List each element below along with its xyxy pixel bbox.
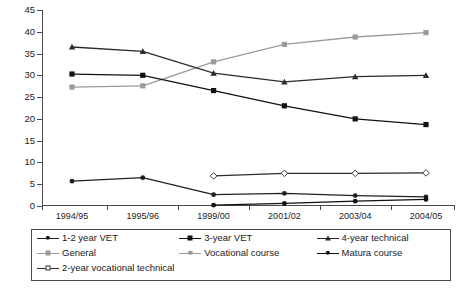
series-3-year-vet	[69, 71, 428, 127]
legend-label: 3-year VET	[204, 233, 252, 243]
y-tick-label: 0	[30, 201, 35, 211]
legend-label: Vocational course	[204, 248, 279, 258]
data-point	[70, 179, 75, 184]
data-point	[211, 59, 216, 64]
data-point	[210, 173, 217, 180]
y-tick-label: 45	[24, 5, 35, 15]
legend-item[interactable]: Matura course	[317, 248, 445, 258]
y-tick-label: 15	[24, 136, 35, 146]
x-tick-label: 1995/96	[127, 212, 160, 221]
plot-area: 051015202530354045 1994/951995/961999/00…	[42, 10, 454, 206]
y-tick-label: 40	[24, 27, 35, 37]
data-point	[211, 203, 216, 208]
series-vocational-course	[211, 30, 429, 64]
legend-row: 1-2 year VET3-year VET4-year technical	[37, 233, 445, 248]
x-tick-label: 2001/02	[268, 212, 301, 221]
data-point	[423, 122, 428, 127]
series-4-year-technical	[69, 44, 429, 85]
data-point	[423, 170, 430, 177]
data-point	[140, 73, 145, 78]
x-tick-label: 1994/95	[56, 212, 89, 221]
series-2-year-vocational-technical	[210, 170, 429, 180]
legend-row: GeneralVocational courseMatura course	[37, 248, 445, 263]
legend-item[interactable]: 2-year vocational technical	[37, 263, 181, 273]
legend-label: 4-year technical	[342, 233, 409, 243]
series-general	[69, 83, 145, 90]
series-line	[214, 33, 426, 62]
legend-marker-icon	[37, 248, 59, 258]
legend-item[interactable]: 3-year VET	[179, 233, 316, 243]
legend-marker-icon	[37, 233, 59, 243]
chart-legend: 1-2 year VET3-year VET4-year technical G…	[31, 229, 451, 281]
y-tick-label: 25	[24, 92, 35, 102]
series-line	[214, 199, 426, 205]
y-tick-label: 30	[24, 71, 35, 81]
data-point	[423, 30, 428, 35]
data-point	[140, 83, 145, 88]
legend-item[interactable]: Vocational course	[179, 248, 316, 258]
legend-row: 2-year vocational technical	[37, 263, 445, 278]
series-line	[72, 86, 143, 87]
series-line	[72, 74, 426, 125]
legend-marker-icon	[179, 233, 201, 243]
y-tick-label: 35	[24, 49, 35, 59]
legend-marker-icon	[179, 248, 201, 258]
series-layer	[42, 10, 454, 206]
data-point	[353, 116, 358, 121]
data-point	[140, 175, 145, 180]
legend-label: 1-2 year VET	[62, 233, 118, 243]
data-point	[282, 191, 287, 196]
y-tick-label: 20	[24, 114, 35, 124]
y-tick-label: 10	[24, 158, 35, 168]
legend-item[interactable]: 4-year technical	[317, 233, 445, 243]
legend-marker-icon	[317, 233, 339, 243]
data-point	[282, 42, 287, 47]
data-point	[282, 103, 287, 108]
line-chart: 051015202530354045 1994/951995/961999/00…	[0, 0, 470, 289]
legend-item[interactable]: General	[37, 248, 179, 258]
x-tick-label: 1999/00	[197, 212, 230, 221]
legend-item[interactable]: 1-2 year VET	[37, 233, 179, 243]
data-point	[211, 192, 216, 197]
legend-marker-icon	[37, 263, 59, 273]
data-point	[282, 201, 287, 206]
data-point	[353, 34, 358, 39]
x-tick-label: 2004/05	[410, 212, 443, 221]
legend-label: Matura course	[342, 248, 403, 258]
series-line	[72, 178, 426, 197]
data-point	[69, 71, 74, 76]
legend-label: General	[62, 248, 96, 258]
data-point	[352, 170, 359, 177]
series-line	[72, 47, 426, 82]
series-line	[214, 173, 426, 176]
series-matura-course	[211, 197, 428, 207]
data-point	[69, 84, 74, 89]
data-point	[424, 197, 429, 202]
data-point	[281, 170, 288, 177]
x-tick-label: 2003/04	[339, 212, 372, 221]
legend-marker-icon	[317, 248, 339, 258]
series-1-2-year-vet	[70, 175, 429, 199]
x-tick	[454, 205, 455, 210]
data-point	[353, 193, 358, 198]
data-point	[211, 88, 216, 93]
series-connector	[143, 62, 214, 86]
data-point	[353, 199, 358, 204]
legend-label: 2-year vocational technical	[62, 263, 174, 273]
y-tick-label: 5	[30, 179, 35, 189]
